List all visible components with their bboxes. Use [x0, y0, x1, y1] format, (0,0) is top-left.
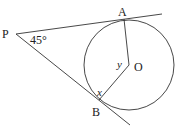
angle-x-label: x — [96, 86, 102, 98]
label-b: B — [92, 105, 100, 119]
angle-y-label: y — [116, 58, 122, 70]
angle-p-label: 45° — [30, 33, 47, 47]
tangent-line-pa — [16, 14, 162, 34]
radius-ob — [99, 65, 129, 100]
radius-oa — [124, 19, 129, 65]
geometry-diagram: P A O B 45° x y — [0, 0, 175, 127]
label-o: O — [134, 60, 143, 74]
tangent-line-pb — [16, 34, 130, 125]
label-p: P — [2, 27, 9, 41]
label-a: A — [118, 5, 127, 19]
